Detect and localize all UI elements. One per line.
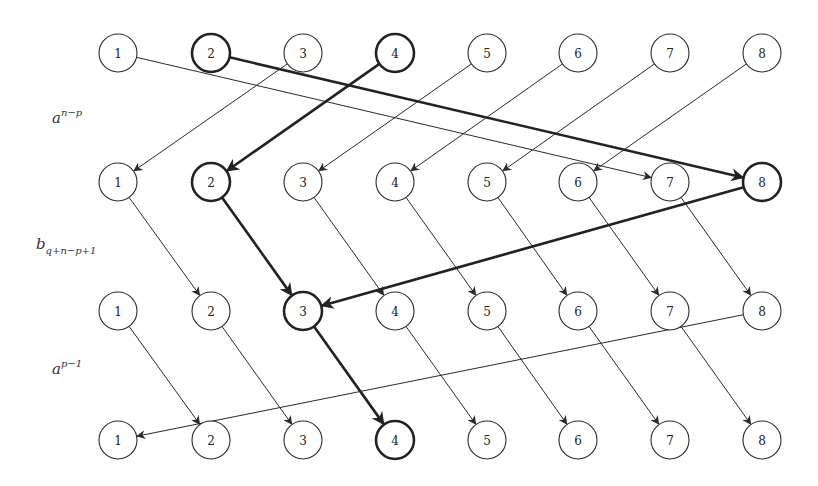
- node-row4-8: 8: [743, 421, 781, 459]
- node-row3-1: 1: [99, 292, 137, 330]
- node-label: 4: [391, 176, 399, 190]
- node-row2-8-highlighted: 8: [743, 163, 781, 201]
- node-label: 7: [666, 176, 674, 190]
- node-row1-1: 1: [99, 34, 137, 72]
- edge-r1-3-to-r2-4: [314, 197, 384, 295]
- edge-r2-6-to-r3-7: [589, 326, 659, 424]
- node-label: 4: [391, 434, 399, 448]
- nodes-layer: 12345678123456781234567812345678: [99, 34, 781, 459]
- row-label-2: bq+n−p+1: [36, 235, 96, 256]
- edge-r0-8-to-r1-6: [594, 64, 746, 171]
- node-row4-1: 1: [99, 421, 137, 459]
- node-row2-3: 3: [284, 163, 322, 201]
- node-row2-6: 6: [559, 163, 597, 201]
- edge-r1-7-to-r2-8: [681, 197, 751, 295]
- edge-r0-7-to-r1-5: [503, 64, 655, 171]
- edge-r1-1-to-r2-2: [129, 197, 199, 295]
- node-label: 3: [299, 434, 307, 448]
- node-row3-2: 2: [192, 292, 230, 330]
- node-row1-4-highlighted: 4: [376, 34, 414, 72]
- permutation-diagram: 12345678123456781234567812345678 an−pbq+…: [0, 0, 818, 486]
- node-label: 4: [391, 47, 399, 61]
- row-labels-layer: an−pbq+n−p+1ap−1: [36, 107, 96, 378]
- node-label: 5: [483, 434, 491, 448]
- node-row2-1: 1: [99, 163, 137, 201]
- node-row3-5: 5: [468, 292, 506, 330]
- node-label: 2: [207, 305, 215, 319]
- node-label: 8: [758, 47, 766, 61]
- node-label: 1: [114, 47, 122, 61]
- edge-r2-7-to-r3-8: [681, 326, 751, 424]
- node-row4-7: 7: [651, 421, 689, 459]
- node-label: 6: [574, 47, 582, 61]
- row-label-superscript: n−p: [61, 107, 83, 118]
- node-label: 5: [483, 305, 491, 319]
- row-label-base: a: [52, 360, 61, 378]
- row-label-base: a: [52, 109, 61, 127]
- node-label: 2: [207, 176, 215, 190]
- edge-r2-8-to-r3-1: [137, 315, 743, 436]
- node-label: 8: [758, 434, 766, 448]
- node-label: 7: [666, 47, 674, 61]
- node-label: 8: [758, 176, 766, 190]
- row-label-1: an−p: [52, 107, 83, 127]
- node-row4-2: 2: [192, 421, 230, 459]
- edge-r1-4-to-r2-5: [406, 197, 476, 295]
- node-row1-3: 3: [284, 34, 322, 72]
- edge-r0-5-to-r1-3: [319, 64, 471, 171]
- node-label: 6: [574, 176, 582, 190]
- node-row3-8: 8: [743, 292, 781, 330]
- node-label: 3: [299, 305, 307, 319]
- node-label: 4: [391, 305, 399, 319]
- node-label: 2: [207, 47, 215, 61]
- node-row2-5: 5: [468, 163, 506, 201]
- edge-r2-2-to-r3-3: [222, 326, 292, 424]
- node-label: 1: [114, 176, 122, 190]
- node-label: 3: [299, 176, 307, 190]
- node-row1-2-highlighted: 2: [192, 34, 230, 72]
- row-label-3: ap−1: [52, 358, 82, 378]
- node-label: 2: [207, 434, 215, 448]
- node-row3-7: 7: [651, 292, 689, 330]
- node-label: 5: [483, 47, 491, 61]
- node-row4-5: 5: [468, 421, 506, 459]
- node-label: 6: [574, 305, 582, 319]
- node-row3-4: 4: [376, 292, 414, 330]
- edge-r2-1-to-r3-2: [129, 326, 199, 424]
- edge-r2-5-to-r3-6: [498, 327, 567, 425]
- edge-r0-3-to-r1-1: [134, 64, 287, 171]
- node-label: 5: [483, 176, 491, 190]
- node-row1-7: 7: [651, 34, 689, 72]
- edge-r0-4-to-r1-2-highlighted: [227, 64, 379, 171]
- node-label: 1: [114, 434, 122, 448]
- node-label: 8: [758, 305, 766, 319]
- node-row2-7: 7: [651, 163, 689, 201]
- row-label-superscript: p−1: [61, 358, 82, 369]
- node-label: 6: [574, 434, 582, 448]
- node-row1-8: 8: [743, 34, 781, 72]
- edge-r0-1-to-r1-7: [137, 57, 652, 177]
- edge-r0-6-to-r1-4: [411, 64, 563, 171]
- node-row4-6: 6: [559, 421, 597, 459]
- node-row4-3: 3: [284, 421, 322, 459]
- row-label-base: b: [36, 235, 46, 253]
- row-label-subscript: q+n−p+1: [46, 245, 97, 256]
- edges-layer: [129, 57, 751, 436]
- node-row3-3-highlighted: 3: [284, 292, 322, 330]
- node-row1-6: 6: [559, 34, 597, 72]
- node-label: 7: [666, 305, 674, 319]
- edge-r1-2-to-r2-3-highlighted: [222, 197, 292, 295]
- node-row3-6: 6: [559, 292, 597, 330]
- node-row2-4: 4: [376, 163, 414, 201]
- edge-r1-8-to-r2-3-highlighted: [322, 187, 744, 306]
- node-row2-2-highlighted: 2: [192, 163, 230, 201]
- node-label: 1: [114, 305, 122, 319]
- edge-r2-3-to-r3-4-highlighted: [314, 326, 384, 424]
- node-label: 3: [299, 47, 307, 61]
- node-row4-4-highlighted: 4: [376, 421, 414, 459]
- edge-r1-6-to-r2-7: [589, 197, 659, 295]
- node-label: 7: [666, 434, 674, 448]
- node-row1-5: 5: [468, 34, 506, 72]
